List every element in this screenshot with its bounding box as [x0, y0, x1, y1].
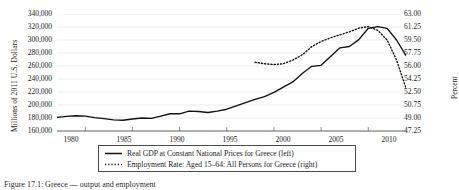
- series-line-real-gdp: [57, 27, 406, 121]
- legend-swatch-solid-icon: [104, 149, 123, 158]
- x-tick-label: 1995: [210, 136, 250, 144]
- legend-swatch-dotted-icon: [104, 160, 123, 169]
- right-tick-label: 54.25: [404, 75, 440, 83]
- right-tick-label: 49.00: [404, 114, 440, 122]
- gridlines: [57, 14, 406, 131]
- figure-caption: Figure 17.1: Greece — output and employm…: [4, 180, 304, 190]
- legend: Real GDP at Constant National Prices for…: [98, 145, 356, 172]
- left-tick-label: 180,000: [8, 114, 52, 122]
- left-tick-label: 160,000: [8, 127, 52, 135]
- right-tick-label: 59.50: [404, 36, 440, 44]
- right-axis-title: Percent: [440, 55, 454, 115]
- x-tick-label: 2010: [369, 136, 409, 144]
- legend-label-real-gdp: Real GDP at Constant National Prices for…: [127, 149, 294, 158]
- left-tick-label: 320,000: [8, 23, 52, 31]
- legend-label-employment-rate: Employment Rate: Aged 15–64: All Persons…: [127, 160, 317, 169]
- left-tick-label: 280,000: [8, 49, 52, 57]
- left-tick-label: 300,000: [8, 36, 52, 44]
- x-tick-label: 1990: [157, 136, 197, 144]
- plot-area: [57, 14, 406, 131]
- left-tick-label: 260,000: [8, 62, 52, 70]
- left-tick-label: 200,000: [8, 101, 52, 109]
- legend-item-employment-rate: Employment Rate: Aged 15–64: All Persons…: [104, 159, 350, 170]
- x-tick-label: 1985: [104, 136, 144, 144]
- right-tick-label: 61.25: [404, 23, 440, 31]
- left-tick-label: 240,000: [8, 75, 52, 83]
- right-tick-label: 47.25: [404, 127, 440, 135]
- left-tick-label: 220,000: [8, 88, 52, 96]
- right-tick-label: 56.00: [404, 62, 440, 70]
- legend-item-real-gdp: Real GDP at Constant National Prices for…: [104, 148, 350, 159]
- x-tick-label: 1980: [51, 136, 91, 144]
- chart-canvas: [57, 14, 406, 134]
- left-tick-label: 340,000: [8, 10, 52, 18]
- x-tick-label: 2005: [316, 136, 356, 144]
- right-tick-label: 57.75: [404, 49, 440, 57]
- right-tick-label: 52.50: [404, 88, 440, 96]
- right-axis-title-text: Percent: [450, 77, 459, 100]
- x-tick-label: 2000: [263, 136, 303, 144]
- right-tick-label: 63.00: [404, 10, 440, 18]
- x-axis-ticks: [85, 127, 368, 131]
- right-tick-label: 50.75: [404, 101, 440, 109]
